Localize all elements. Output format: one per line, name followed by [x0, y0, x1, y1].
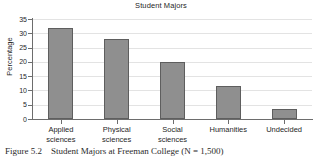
y-axis-tick [28, 76, 32, 77]
x-axis-tick [173, 120, 174, 124]
x-axis-category-label-line: Humanities [200, 125, 256, 135]
y-axis-tick [28, 62, 32, 63]
x-axis-category-label-line: sciences [145, 135, 201, 145]
x-axis-tick [284, 120, 285, 124]
x-axis-category-label-line: sciences [89, 135, 145, 145]
plot-area [33, 19, 312, 119]
y-axis-tick-label: 0 [1, 116, 27, 123]
figure-caption-text: Student Majors at Freeman College (N = 1… [51, 146, 224, 156]
x-axis-category-label: Physicalsciences [89, 125, 145, 144]
x-axis-category-label-line: Applied [33, 125, 89, 135]
x-axis-category-label: Humanities [200, 125, 256, 135]
y-axis-tick [28, 119, 32, 120]
y-axis-tick [28, 48, 32, 49]
y-axis-tick [28, 33, 32, 34]
x-axis-category-label-line: Undecided [256, 125, 312, 135]
y-axis-tick-label: 35 [1, 16, 27, 23]
x-axis-category-label-line: Physical [89, 125, 145, 135]
bar[interactable] [104, 39, 129, 119]
x-axis-category-label-line: sciences [33, 135, 89, 145]
gridline [33, 48, 312, 49]
x-axis-category-label: Appliedsciences [33, 125, 89, 144]
y-axis-tick [28, 105, 32, 106]
y-axis-tick-label: 5 [1, 101, 27, 108]
x-axis-category-label: Undecided [256, 125, 312, 135]
bar[interactable] [48, 28, 73, 119]
x-axis-tick [61, 120, 62, 124]
x-axis-tick [228, 120, 229, 124]
bar[interactable] [272, 109, 297, 119]
figure-number: Figure 5.2 [5, 146, 42, 156]
y-axis-title: Percentage [5, 26, 14, 88]
x-axis-category-label-line: Social [145, 125, 201, 135]
bar[interactable] [216, 86, 241, 119]
gridline [33, 19, 312, 20]
figure-container: Student Majors 05101520253035 Percentage… [0, 0, 322, 157]
x-axis-tick [117, 120, 118, 124]
gridline [33, 33, 312, 34]
y-axis-tick-label: 10 [1, 87, 27, 94]
y-axis-tick [28, 90, 32, 91]
bar[interactable] [160, 62, 185, 119]
chart-title: Student Majors [0, 1, 322, 10]
y-axis-tick [28, 19, 32, 20]
x-axis-category-label: Socialsciences [145, 125, 201, 144]
figure-caption: Figure 5.2 Student Majors at Freeman Col… [5, 146, 317, 157]
